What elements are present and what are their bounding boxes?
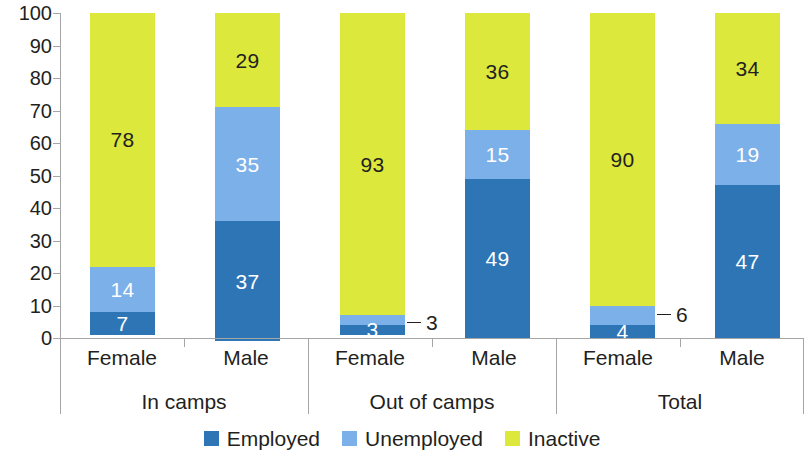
y-axis-tick-label: 50 — [6, 166, 52, 186]
bar-segment-value: 34 — [736, 58, 760, 79]
group-label-in-camps: In camps — [60, 390, 308, 414]
chart-legend: EmployedUnemployedInactive — [0, 428, 804, 449]
legend-label: Employed — [227, 428, 320, 449]
bar-segment-value: 93 — [361, 154, 385, 175]
y-axis-tick-label: 20 — [6, 263, 52, 283]
bar-segment-value: 47 — [736, 251, 760, 272]
y-axis-tick — [53, 143, 61, 144]
bar-segment-employed: 37 — [215, 221, 280, 341]
y-axis-tick-label: 10 — [6, 296, 52, 316]
bar-segment-inactive: 90 — [590, 13, 655, 306]
y-axis-tick-label: 90 — [6, 36, 52, 56]
bar-total-female: 9064 — [590, 13, 655, 338]
bar-segment-value: 19 — [736, 144, 760, 165]
bar-segment-employed: 7 — [90, 312, 155, 335]
y-axis-tick — [53, 208, 61, 209]
legend-item-unemployed[interactable]: Unemployed — [342, 428, 483, 449]
category-label-female-4: Female — [554, 346, 682, 370]
bar-out-of-camps-male: 361549 — [465, 13, 530, 338]
stacked-bar-chart: 1009080706050403020100 78147293537933336… — [0, 0, 804, 457]
category-label-male-5: Male — [678, 346, 804, 370]
legend-label: Unemployed — [365, 428, 483, 449]
plot-area: 7814729353793333615499064341947 — [61, 13, 804, 338]
bar-segment-employed: 47 — [715, 185, 780, 338]
category-label-male-3: Male — [430, 346, 558, 370]
bar-segment-value: 78 — [111, 129, 135, 150]
y-axis-tick-label: 80 — [6, 68, 52, 88]
category-label-female-0: Female — [58, 346, 186, 370]
legend-label: Inactive — [528, 428, 600, 449]
bar-segment-value: 14 — [111, 279, 135, 300]
bar-segment-unemployed: 14 — [90, 267, 155, 313]
bar-segment-value: 49 — [486, 248, 510, 269]
bar-segment-unemployed: 15 — [465, 130, 530, 179]
bar-total-male: 341947 — [715, 13, 780, 338]
bar-segment-inactive: 34 — [715, 13, 780, 124]
y-axis-tick — [53, 176, 61, 177]
bar-segment-value: 29 — [236, 50, 260, 71]
bar-segment-value: 37 — [236, 271, 260, 292]
callout-leader-line — [407, 322, 421, 323]
y-axis-tick-label: 60 — [6, 133, 52, 153]
y-axis-tick — [53, 111, 61, 112]
bar-segment-unemployed: 35 — [215, 107, 280, 221]
bar-segment-callout: 3 — [407, 312, 438, 333]
bar-segment-unemployed: 19 — [715, 124, 780, 186]
callout-value: 3 — [426, 312, 438, 333]
bar-segment-employed: 3 — [340, 325, 405, 335]
bar-segment-employed: 49 — [465, 179, 530, 338]
y-axis-tick — [53, 46, 61, 47]
bar-segment-inactive: 36 — [465, 13, 530, 130]
legend-swatch-icon — [204, 431, 219, 446]
bar-in-camps-male: 293537 — [215, 13, 280, 338]
legend-swatch-icon — [505, 431, 520, 446]
legend-item-inactive[interactable]: Inactive — [505, 428, 600, 449]
category-label-female-2: Female — [306, 346, 434, 370]
y-axis-tick-label: 40 — [6, 198, 52, 218]
bar-in-camps-female: 78147 — [90, 13, 155, 338]
bar-segment-inactive: 78 — [90, 13, 155, 267]
bar-segment-inactive: 93 — [340, 13, 405, 315]
callout-value: 6 — [676, 304, 688, 325]
callout-leader-line — [657, 314, 671, 315]
bar-segment-value: 90 — [611, 149, 635, 170]
bar-segment-value: 7 — [117, 313, 129, 334]
y-axis-tick-label: 100 — [6, 3, 52, 23]
bar-segment-value: 15 — [486, 144, 510, 165]
bar-out-of-camps-female: 9333 — [340, 13, 405, 338]
legend-swatch-icon — [342, 431, 357, 446]
y-axis-tick — [53, 13, 61, 14]
y-axis-tick — [53, 78, 61, 79]
y-axis-tick — [53, 306, 61, 307]
bar-segment-value: 35 — [236, 154, 260, 175]
y-axis-labels: 1009080706050403020100 — [0, 0, 52, 457]
bar-segment-employed: 4 — [590, 325, 655, 338]
group-label-out-of-camps: Out of camps — [308, 390, 556, 414]
legend-item-employed[interactable]: Employed — [204, 428, 320, 449]
bar-segment-callout: 6 — [657, 304, 688, 325]
bar-segment-value: 36 — [486, 61, 510, 82]
y-axis-tick — [53, 338, 61, 339]
y-axis-tick — [53, 241, 61, 242]
category-label-male-1: Male — [182, 346, 310, 370]
y-axis-tick-label: 30 — [6, 231, 52, 251]
y-axis-tick-label: 70 — [6, 101, 52, 121]
y-axis-tick-label: 0 — [6, 328, 52, 348]
bar-segment-inactive: 29 — [215, 13, 280, 107]
y-axis-tick — [53, 273, 61, 274]
group-label-total: Total — [556, 390, 804, 414]
